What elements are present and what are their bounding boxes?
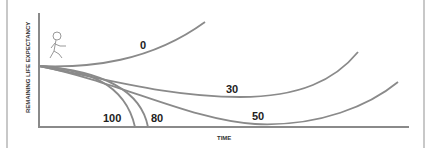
curve-label-0: 0 bbox=[140, 39, 146, 51]
running-person-icon bbox=[50, 32, 66, 58]
y-axis-label: REMAINING LIFE EXPECTANCY bbox=[25, 22, 31, 113]
x-axis-label: TIME bbox=[217, 135, 231, 141]
curve-0 bbox=[39, 22, 205, 66]
curve-label-30: 30 bbox=[226, 83, 238, 95]
curve-label-100: 100 bbox=[103, 112, 121, 124]
curve-label-80: 80 bbox=[151, 112, 163, 124]
life-expectancy-diagram: 0 30 50 80 100 TIME REMAINING LIFE EXPEC… bbox=[0, 0, 428, 148]
curve-label-50: 50 bbox=[252, 110, 264, 122]
